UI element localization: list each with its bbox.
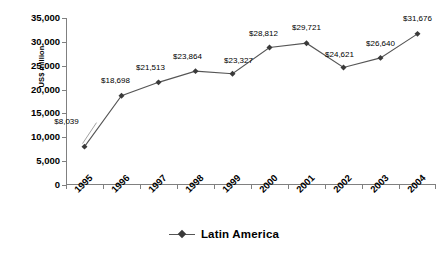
point-value-label: $31,676 bbox=[403, 14, 432, 23]
point-value-label: $23,327 bbox=[224, 56, 253, 65]
data-point-marker bbox=[341, 65, 347, 71]
series-line bbox=[85, 34, 418, 147]
y-tick-mark bbox=[62, 90, 67, 91]
point-value-label: $21,513 bbox=[136, 63, 165, 72]
data-point-marker bbox=[156, 79, 162, 85]
y-tick-label: 0 bbox=[14, 180, 60, 190]
y-tick-mark bbox=[62, 137, 67, 138]
y-tick-label: 5,000 bbox=[14, 156, 60, 166]
legend-label-latin-america: Latin America bbox=[201, 228, 279, 240]
diamond-marker-icon bbox=[169, 229, 195, 239]
point-value-label: $24,621 bbox=[325, 50, 354, 59]
point-value-label: $28,812 bbox=[249, 29, 278, 38]
point-value-label: $29,721 bbox=[292, 23, 321, 32]
y-axis-tick-labels: 05,00010,00015,00020,00025,00030,00035,0… bbox=[14, 0, 60, 254]
y-tick-mark bbox=[62, 161, 67, 162]
y-tick-label: 20,000 bbox=[14, 85, 60, 95]
point-value-label: $18,698 bbox=[101, 76, 130, 85]
data-point-marker bbox=[304, 40, 310, 46]
y-tick-mark bbox=[62, 18, 67, 19]
y-tick-mark bbox=[62, 113, 67, 114]
point-value-label: $8,039 bbox=[54, 117, 78, 126]
y-tick-label: 15,000 bbox=[14, 108, 60, 118]
chart-legend: Latin America bbox=[0, 228, 448, 240]
point-value-label: $23,864 bbox=[173, 52, 202, 61]
y-tick-mark bbox=[62, 66, 67, 67]
y-tick-label: 25,000 bbox=[14, 61, 60, 71]
point-value-label: $26,640 bbox=[366, 39, 395, 48]
data-point-marker bbox=[378, 55, 384, 61]
x-axis-tick-labels: 1995199619971998199920002001200220032004 bbox=[66, 185, 436, 231]
line-chart: US$ million 05,00010,00015,00020,00025,0… bbox=[0, 0, 448, 254]
y-tick-label: 30,000 bbox=[14, 37, 60, 47]
data-point-marker bbox=[193, 68, 199, 74]
y-tick-label: 10,000 bbox=[14, 132, 60, 142]
data-point-marker bbox=[415, 31, 421, 37]
y-tick-label: 35,000 bbox=[14, 13, 60, 23]
y-tick-mark bbox=[62, 42, 67, 43]
